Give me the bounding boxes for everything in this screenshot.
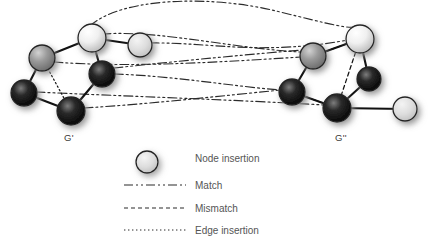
node-right-R3-original (279, 79, 305, 105)
node-right-R5-original (357, 67, 381, 91)
node-left-L3-insertion (128, 33, 152, 57)
graph-matching-figure: G'G'' Node insertionMatchMismatchEdge in… (0, 0, 430, 244)
legend-swatch-node-insertion (136, 151, 158, 173)
figure-canvas: G'G'' Node insertionMatchMismatchEdge in… (0, 0, 430, 244)
node-right-R2-original (300, 43, 326, 69)
node-left-L2-original (78, 24, 106, 52)
node-right-R1-original (346, 25, 374, 53)
legend-label-edge-insertion: Edge insertion (195, 225, 259, 236)
legend-label-node-insertion: Node insertion (195, 153, 259, 164)
node-right-R4-original (323, 94, 351, 122)
right-graph-label: G'' (335, 132, 347, 143)
node-left-L1-original (29, 45, 55, 71)
node-left-L4-original (89, 61, 115, 87)
node-left-L5-original (11, 80, 37, 106)
node-left-L6-original (57, 97, 85, 125)
node-right-R6-insertion (393, 97, 417, 121)
legend-label-match: Match (195, 180, 222, 191)
left-graph-label: G' (64, 132, 74, 143)
legend-label-mismatch: Mismatch (195, 203, 238, 214)
